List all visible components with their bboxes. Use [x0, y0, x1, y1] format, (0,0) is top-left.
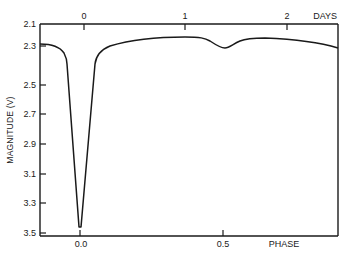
y-tick-label: 2.9 — [23, 139, 36, 149]
y-tick-label: 3.3 — [23, 198, 36, 208]
top-tick-label: 0 — [81, 11, 86, 21]
y-ticks — [40, 46, 46, 233]
bottom-axis-title: PHASE — [269, 239, 300, 249]
y-axis-title: MAGNITUDE (V) — [5, 96, 15, 163]
top-axis-title: DAYS — [313, 11, 337, 21]
bottom-tick-label: 0.5 — [217, 239, 230, 249]
top-ticks — [84, 24, 287, 30]
bottom-tick-label: 0.0 — [75, 239, 88, 249]
y-tick-label: 2.5 — [23, 80, 36, 90]
y-tick-labels: 2.1 2.3 2.5 2.7 2.9 3.1 3.3 3.5 — [23, 19, 36, 238]
y-tick-label: 2.7 — [23, 109, 36, 119]
light-curve-chart: 2.1 2.3 2.5 2.7 2.9 3.1 3.3 3.5 MAGNITUD… — [0, 0, 347, 257]
top-tick-label: 1 — [182, 11, 187, 21]
y-tick-label: 2.1 — [23, 19, 36, 29]
top-tick-label: 2 — [284, 11, 289, 21]
light-curve-line — [40, 37, 338, 227]
y-tick-label: 2.3 — [23, 41, 36, 51]
bottom-ticks — [80, 230, 223, 236]
y-tick-label: 3.1 — [23, 169, 36, 179]
y-tick-label: 3.5 — [23, 228, 36, 238]
